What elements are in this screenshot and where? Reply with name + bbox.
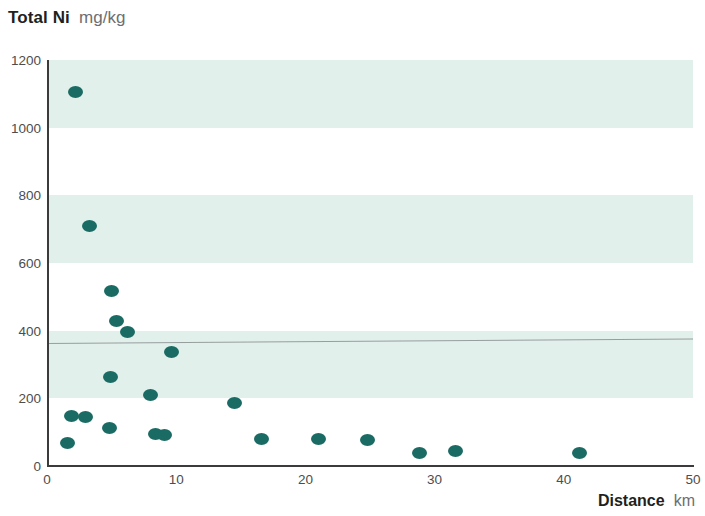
x-tick-label: 50 [685, 472, 700, 487]
data-point [157, 429, 172, 441]
x-axis-title-units: km [674, 492, 695, 510]
scatter-chart-figure: Total Ni mg/kg 020040060080010001200 010… [0, 0, 705, 516]
chart-title-main: Total Ni [8, 8, 70, 28]
data-point [311, 433, 326, 445]
data-point [572, 447, 587, 459]
x-axis-title: Distance km [598, 492, 695, 514]
chart-title-units: mg/kg [79, 8, 126, 28]
data-point [164, 346, 179, 358]
data-point [104, 285, 119, 297]
x-axis-tick-labels: 01020304050 [47, 472, 693, 492]
y-tick-label: 1200 [1, 53, 41, 68]
y-tick-label: 800 [1, 188, 41, 203]
x-axis-title-main: Distance [598, 492, 665, 510]
x-tick-label: 0 [43, 472, 51, 487]
data-point [60, 437, 75, 449]
y-axis-tick-labels: 020040060080010001200 [0, 60, 41, 466]
x-axis-line [47, 465, 694, 467]
chart-title: Total Ni mg/kg [8, 8, 126, 34]
y-tick-label: 1000 [1, 120, 41, 135]
data-point [360, 434, 375, 446]
background-band [47, 60, 693, 128]
y-tick-label: 600 [1, 256, 41, 271]
data-point [448, 445, 463, 457]
data-point [102, 422, 117, 434]
x-tick-label: 40 [556, 472, 571, 487]
data-point [254, 433, 269, 445]
plot-area [47, 60, 693, 466]
data-point [227, 397, 242, 409]
data-point [68, 86, 83, 98]
x-tick-label: 10 [169, 472, 184, 487]
x-tick-label: 20 [298, 472, 313, 487]
data-point [143, 389, 158, 401]
x-tick-label: 30 [427, 472, 442, 487]
y-tick-label: 200 [1, 391, 41, 406]
data-point [120, 326, 135, 338]
y-tick-label: 0 [1, 459, 41, 474]
background-band [47, 195, 693, 263]
data-point [64, 410, 79, 422]
y-tick-label: 400 [1, 323, 41, 338]
data-point [412, 447, 427, 459]
data-point [78, 411, 93, 423]
y-axis-line [47, 60, 49, 467]
data-point [109, 315, 124, 327]
